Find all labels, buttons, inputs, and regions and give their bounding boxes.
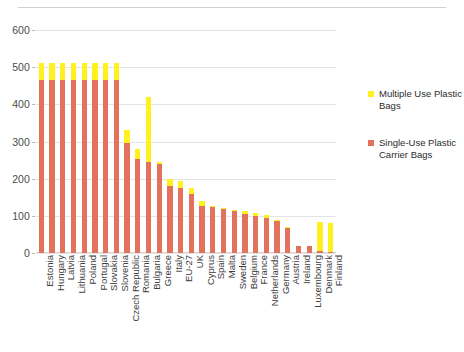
- bar-lithuania[interactable]: [71, 63, 76, 253]
- segment-single-use: [103, 80, 108, 253]
- bar-ireland[interactable]: [296, 246, 301, 253]
- bar-spain[interactable]: [210, 206, 215, 253]
- x-label-poland: Poland: [88, 255, 97, 285]
- segment-single-use: [274, 221, 279, 253]
- bar-netherlands[interactable]: [264, 215, 269, 253]
- segment-multiple-use: [39, 63, 44, 80]
- segment-single-use: [92, 80, 97, 253]
- bar-france[interactable]: [253, 213, 258, 253]
- segment-single-use: [167, 186, 172, 253]
- x-label-bulgaria: Bulgaria: [152, 255, 161, 290]
- y-tick-label-200: 200: [0, 173, 30, 185]
- y-tick-label-0: 0: [0, 247, 30, 259]
- legend-label: Multiple Use Plastic Bags: [379, 88, 464, 111]
- x-label-cyprus: Cyprus: [206, 255, 215, 285]
- x-label-eu-27: EU-27: [184, 255, 193, 282]
- segment-single-use: [124, 143, 129, 253]
- x-label-france: France: [259, 255, 268, 285]
- x-label-belgium: Belgium: [249, 255, 258, 289]
- x-label-estonia: Estonia: [45, 255, 54, 287]
- bar-finland[interactable]: [328, 223, 333, 253]
- bar-eu-27[interactable]: [178, 181, 183, 253]
- bar-cyprus[interactable]: [199, 201, 204, 253]
- bar-romania[interactable]: [135, 149, 140, 253]
- segment-multiple-use: [328, 223, 333, 252]
- bar-slovakia[interactable]: [103, 63, 108, 253]
- x-label-uk: UK: [195, 255, 204, 268]
- segment-multiple-use: [49, 63, 54, 80]
- bar-latvia[interactable]: [60, 63, 65, 253]
- bar-estonia[interactable]: [39, 63, 44, 253]
- segment-single-use: [39, 80, 44, 253]
- bar-czech-republic[interactable]: [124, 130, 129, 253]
- x-label-sweden: Sweden: [238, 255, 247, 289]
- y-tick-label-300: 300: [0, 136, 30, 148]
- segment-single-use: [199, 206, 204, 253]
- segment-single-use: [317, 251, 322, 253]
- x-label-portugal: Portugal: [99, 255, 108, 290]
- segment-multiple-use: [92, 63, 97, 80]
- y-tick-mark-0: [32, 253, 35, 254]
- bar-greece[interactable]: [157, 162, 162, 253]
- chart-figure: 0100200300400500600 EstoniaHungaryLatvia…: [0, 0, 464, 352]
- x-label-netherlands: Netherlands: [270, 255, 279, 306]
- bar-portugal[interactable]: [92, 63, 97, 253]
- segment-single-use: [114, 80, 119, 253]
- bar-bulgaria[interactable]: [146, 97, 151, 253]
- segment-single-use: [189, 194, 194, 253]
- bar-uk[interactable]: [189, 188, 194, 253]
- segment-multiple-use: [103, 63, 108, 80]
- bar-luxembourg[interactable]: [307, 246, 312, 253]
- bar-italy[interactable]: [167, 179, 172, 253]
- bar-poland[interactable]: [82, 63, 87, 253]
- x-label-denmark: Denmark: [324, 255, 333, 294]
- segment-single-use: [210, 207, 215, 253]
- segment-single-use: [146, 162, 151, 253]
- bar-austria[interactable]: [285, 227, 290, 253]
- segment-single-use: [49, 80, 54, 253]
- y-tick-mark-200: [32, 179, 35, 180]
- bar-malta[interactable]: [221, 208, 226, 253]
- segment-single-use: [264, 218, 269, 253]
- plot-area: [36, 30, 336, 253]
- bar-slovenia[interactable]: [114, 63, 119, 253]
- segment-multiple-use: [135, 149, 140, 159]
- bar-sweden[interactable]: [232, 210, 237, 253]
- x-label-slovenia: Slovenia: [120, 255, 129, 291]
- segment-single-use: [82, 80, 87, 253]
- x-label-latvia: Latvia: [66, 255, 75, 280]
- x-label-italy: Italy: [174, 255, 183, 272]
- segment-single-use: [253, 216, 258, 253]
- x-label-austria: Austria: [291, 255, 300, 285]
- segment-single-use: [60, 80, 65, 253]
- y-tick-mark-600: [32, 30, 35, 31]
- x-label-germany: Germany: [281, 255, 290, 294]
- segment-multiple-use: [189, 188, 194, 195]
- top-divider-rule: [18, 7, 446, 8]
- y-tick-mark-100: [32, 216, 35, 217]
- segment-multiple-use: [60, 63, 65, 80]
- x-label-greece: Greece: [163, 255, 172, 286]
- y-tick-mark-500: [32, 67, 35, 68]
- bar-denmark[interactable]: [317, 222, 322, 253]
- bar-hungary[interactable]: [49, 63, 54, 253]
- x-label-slovakia: Slovakia: [109, 255, 118, 291]
- x-label-lithuania: Lithuania: [77, 255, 86, 294]
- segment-multiple-use: [178, 181, 183, 188]
- x-label-czech-republic: Czech Republic: [131, 255, 140, 322]
- legend-swatch-single-use-icon: [368, 140, 374, 146]
- x-label-luxembourg: Luxembourg: [313, 255, 322, 308]
- y-tick-mark-300: [32, 142, 35, 143]
- segment-multiple-use: [124, 130, 129, 143]
- bar-germany[interactable]: [274, 220, 279, 253]
- segment-multiple-use: [167, 179, 172, 186]
- segment-single-use: [232, 211, 237, 253]
- x-label-malta: Malta: [227, 255, 236, 278]
- segment-multiple-use: [114, 63, 119, 80]
- legend-entry-multiple-use[interactable]: Multiple Use Plastic Bags: [368, 88, 464, 111]
- segment-single-use: [328, 252, 333, 253]
- segment-single-use: [157, 164, 162, 253]
- legend-entry-single-use[interactable]: Single-Use Plastic Carrier Bags: [368, 137, 464, 160]
- x-label-spain: Spain: [216, 255, 225, 279]
- bar-belgium[interactable]: [242, 211, 247, 253]
